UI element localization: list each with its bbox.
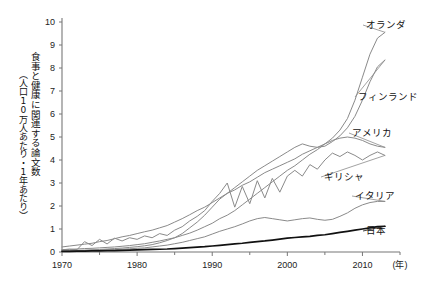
- x-tick-label: 1970: [52, 260, 72, 270]
- y-tick-label: 8: [50, 63, 55, 73]
- y-tick-label: 4: [50, 155, 55, 165]
- series-label-2: アメリカ: [352, 127, 392, 138]
- x-tick-label: 1980: [127, 260, 147, 270]
- chart-container: 012345678910 19701980199020002010 オランダフィ…: [0, 0, 422, 286]
- series-label-0: オランダ: [366, 19, 406, 30]
- y-tick-label: 6: [50, 109, 55, 119]
- series-label-3: ギリシャ: [324, 171, 364, 182]
- y-tick-label: 7: [50, 86, 55, 96]
- y-tick-label: 3: [50, 178, 55, 188]
- y-tick-label: 0: [50, 247, 55, 257]
- y-tick-label: 9: [50, 40, 55, 50]
- series-label-1: フィンランド: [358, 91, 418, 102]
- y-axis-subtitle: （人口10万人あたり・1年あたり）: [18, 70, 27, 219]
- x-axis-unit-label: (年): [393, 259, 408, 270]
- y-tick-label: 5: [50, 132, 55, 142]
- y-tick-label: 2: [50, 201, 55, 211]
- line-chart-svg: 012345678910 19701980199020002010 オランダフィ…: [0, 0, 422, 286]
- y-tick-label: 1: [50, 224, 55, 234]
- chart-background: [0, 0, 422, 286]
- x-tick-label: 1990: [202, 260, 222, 270]
- series-label-5: 日本: [366, 225, 386, 236]
- x-tick-label: 2010: [352, 260, 372, 270]
- x-tick-label: 2000: [277, 260, 297, 270]
- series-label-4: イタリア: [355, 190, 395, 201]
- y-tick-label: 10: [45, 17, 55, 27]
- y-axis-title: 食事と健康に関連する論文数: [30, 52, 40, 177]
